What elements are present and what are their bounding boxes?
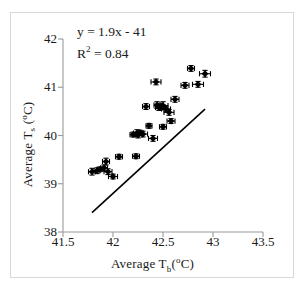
y-tick-label: 41 (31, 79, 57, 95)
y-tick-label: 38 (31, 224, 57, 240)
data-point (202, 70, 209, 77)
y-axis-degree-symbol: o (19, 115, 29, 120)
y-tick-label: 40 (31, 128, 57, 144)
y-tick-label: 39 (31, 176, 57, 192)
y-axis-units-close: C) (20, 102, 35, 115)
data-point (103, 158, 110, 165)
y-tick-label: 42 (31, 31, 57, 47)
r-squared-exponent: 2 (86, 44, 91, 54)
regression-equation: y = 1.9x - 41 (77, 24, 146, 40)
r-squared-annotation: R2 = 0.84 (77, 44, 129, 62)
x-axis-label: Average Tb(oC) (0, 255, 305, 274)
x-axis-units-close: C) (181, 256, 194, 271)
x-tick-label: 42.5 (152, 234, 175, 250)
tick-marks (58, 39, 263, 237)
x-axis-label-text: Average T (111, 256, 167, 271)
r-squared-value: = 0.84 (94, 46, 129, 61)
axes-lines (63, 39, 263, 232)
r-squared-symbol: R (77, 46, 86, 61)
x-tick-label: 43 (207, 234, 220, 250)
x-tick-label: 42 (107, 234, 120, 250)
figure: y = 1.9x - 41 R2 = 0.84 Average Tb(oC) A… (0, 0, 305, 293)
x-tick-label: 43.5 (252, 234, 275, 250)
